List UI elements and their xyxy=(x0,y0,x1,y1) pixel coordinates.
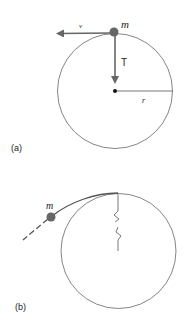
mass-label-b: m xyxy=(46,200,53,211)
circular-path-b xyxy=(61,194,176,309)
mass-b xyxy=(47,213,56,222)
panel-b-label: (b) xyxy=(15,302,26,312)
dashed-trajectory xyxy=(23,219,48,240)
mass-a xyxy=(110,28,119,37)
mass-label-a: m xyxy=(121,18,129,30)
velocity-label: v xyxy=(79,22,83,30)
radius-label: r xyxy=(142,96,146,105)
panel-a: m v T r (a) xyxy=(11,18,173,153)
tension-label: T xyxy=(121,57,127,68)
broken-string xyxy=(114,193,121,251)
center-dot xyxy=(113,89,117,93)
panel-b: m (b) xyxy=(15,193,176,312)
velocity-arrow xyxy=(58,33,112,34)
panel-a-label: (a) xyxy=(11,143,22,153)
diagram-canvas: m v T r (a) m (b) xyxy=(0,0,192,322)
